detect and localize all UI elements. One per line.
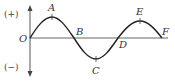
label-f: F xyxy=(161,26,170,37)
wave-diagram: (+) (−) O A B C D E F xyxy=(0,0,175,81)
vertical-axis xyxy=(28,5,33,77)
label-c: C xyxy=(92,65,100,76)
negative-label: (−) xyxy=(4,62,19,72)
label-o: O xyxy=(19,33,27,44)
label-b: B xyxy=(75,26,83,37)
down-arrow-icon xyxy=(28,71,33,77)
up-arrow-icon xyxy=(28,5,33,11)
positive-label: (+) xyxy=(4,9,19,19)
label-d: D xyxy=(118,39,127,50)
label-e: E xyxy=(135,6,144,17)
label-a: A xyxy=(47,2,55,13)
